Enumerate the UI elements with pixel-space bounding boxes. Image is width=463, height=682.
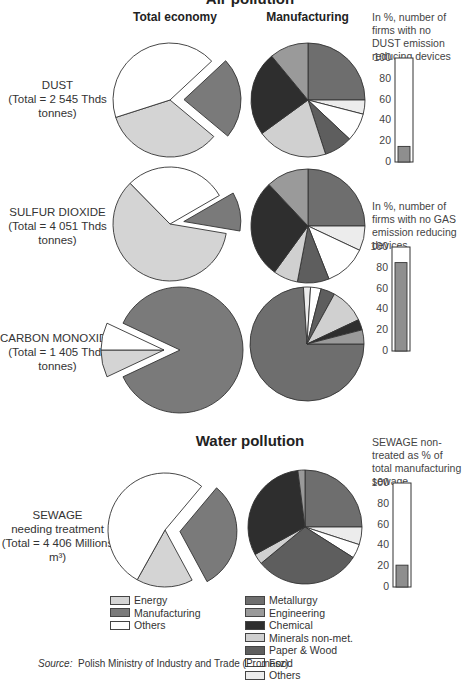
swatch-manufacturing <box>110 608 130 617</box>
legend-label: Others <box>269 669 301 681</box>
swatch-energy <box>110 596 130 605</box>
axis-tick: 100 <box>369 51 391 63</box>
axis-tick: 60 <box>367 518 389 530</box>
bar-value <box>395 263 407 351</box>
legend-label: Minerals non-met. <box>269 632 353 644</box>
legend-item-engineering: Engineering <box>245 607 353 620</box>
bar-value <box>396 565 408 587</box>
swatch-paper-wood <box>245 646 265 655</box>
legend-label: Paper & Wood <box>269 644 337 656</box>
swatch-metallurgy <box>245 596 265 605</box>
axis-tick: 100 <box>367 476 389 488</box>
legend-item-others-mfg: Others <box>245 669 353 682</box>
pie-slice-metallurgy <box>308 169 365 226</box>
axis-tick: 60 <box>366 282 388 294</box>
axis-tick: 60 <box>369 93 391 105</box>
legend-label: Energy <box>134 594 167 606</box>
source-text: Polish Ministry of Industry and Trade (P… <box>78 658 291 669</box>
axis-tick: 80 <box>367 497 389 509</box>
bar-value <box>398 146 410 162</box>
legend-label: Others <box>134 619 166 631</box>
swatch-others-mfg <box>245 671 265 680</box>
axis-tick: 80 <box>366 261 388 273</box>
swatch-engineering <box>245 608 265 617</box>
axis-tick: 20 <box>367 559 389 571</box>
legend-item-paper-wood: Paper & Wood <box>245 644 353 657</box>
legend-item-metallurgy: Metallurgy <box>245 594 353 607</box>
axis-tick: 0 <box>367 580 389 592</box>
legend-item-manufacturing: Manufacturing <box>110 607 201 620</box>
axis-tick: 20 <box>369 134 391 146</box>
legend-label: Manufacturing <box>134 607 201 619</box>
swatch-minerals <box>245 633 265 642</box>
legend-item-minerals: Minerals non-met. <box>245 632 353 645</box>
axis-tick: 0 <box>369 155 391 167</box>
legend-item-chemical: Chemical <box>245 619 353 632</box>
swatch-chemical <box>245 621 265 630</box>
axis-tick: 80 <box>369 72 391 84</box>
legend-item-energy: Energy <box>110 594 201 607</box>
pie-slice-metallurgy <box>308 43 365 100</box>
swatch-others <box>110 621 130 630</box>
axis-tick: 40 <box>366 302 388 314</box>
pie-slice-metallurgy <box>305 470 362 527</box>
source-note: Source: Polish Ministry of Industry and … <box>38 658 291 669</box>
legend-label: Engineering <box>269 607 325 619</box>
legend-label: Metallurgy <box>269 594 317 606</box>
axis-tick: 100 <box>366 240 388 252</box>
legend-total-economy: Energy Manufacturing Others <box>110 594 201 632</box>
axis-tick: 0 <box>366 344 388 356</box>
source-prefix: Source: <box>38 658 72 669</box>
axis-tick: 20 <box>366 323 388 335</box>
legend-label: Chemical <box>269 619 313 631</box>
axis-tick: 40 <box>369 113 391 125</box>
axis-tick: 40 <box>367 538 389 550</box>
legend-item-others: Others <box>110 619 201 632</box>
